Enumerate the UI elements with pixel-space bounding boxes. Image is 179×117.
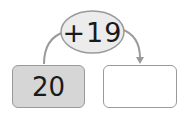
start-value-box: 20 <box>12 65 85 108</box>
arrowhead-icon <box>136 57 144 64</box>
start-value: 20 <box>32 72 65 102</box>
number-machine-diagram: +19 20 <box>0 0 179 117</box>
result-answer-box[interactable] <box>103 65 177 108</box>
operation-label: +19 <box>61 11 124 53</box>
